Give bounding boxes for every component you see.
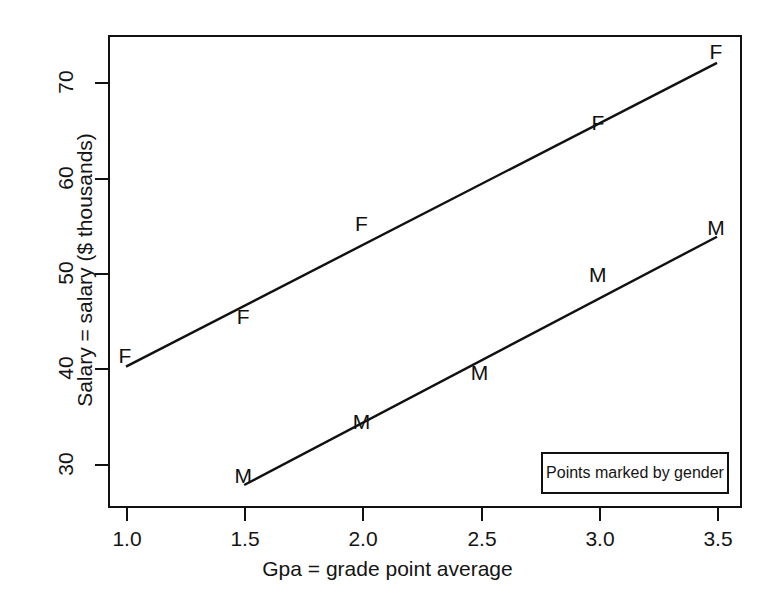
data-marker-male-2: M: [348, 411, 374, 432]
data-marker-female-5: F: [703, 41, 729, 62]
x-tick-label-2-0: 2.0: [333, 527, 393, 551]
data-marker-male-4: M: [585, 264, 611, 285]
x-tick-mark-2-0: [362, 508, 364, 521]
x-tick-mark-3-5: [717, 508, 719, 521]
legend-label: Points marked by gender: [546, 464, 724, 482]
chart-figure: 30 40 50 60 70 1.0 1.5 2.0 2.5 3.0 3.5 G…: [0, 0, 775, 613]
data-marker-female-3: F: [348, 213, 374, 234]
x-tick-label-1-0: 1.0: [97, 527, 157, 551]
data-marker-female-1: F: [112, 345, 138, 366]
x-tick-label-3-0: 3.0: [570, 527, 630, 551]
x-tick-mark-1-0: [126, 508, 128, 521]
y-axis-title: Salary = salary ($ thousands): [73, 30, 97, 510]
data-marker-male-3: M: [467, 362, 493, 383]
data-marker-female-4: F: [585, 112, 611, 133]
legend-box: Points marked by gender: [541, 452, 729, 494]
x-tick-mark-1-5: [244, 508, 246, 521]
x-tick-label-1-5: 1.5: [215, 527, 275, 551]
x-tick-mark-3-0: [599, 508, 601, 521]
data-marker-male-5: M: [703, 217, 729, 238]
data-marker-female-2: F: [230, 306, 256, 327]
data-marker-male-1: M: [230, 465, 256, 486]
x-tick-label-3-5: 3.5: [688, 527, 748, 551]
x-tick-mark-2-5: [481, 508, 483, 521]
plot-area-frame: [108, 35, 742, 508]
x-tick-label-2-5: 2.5: [452, 527, 512, 551]
x-axis-title: Gpa = grade point average: [0, 557, 775, 581]
